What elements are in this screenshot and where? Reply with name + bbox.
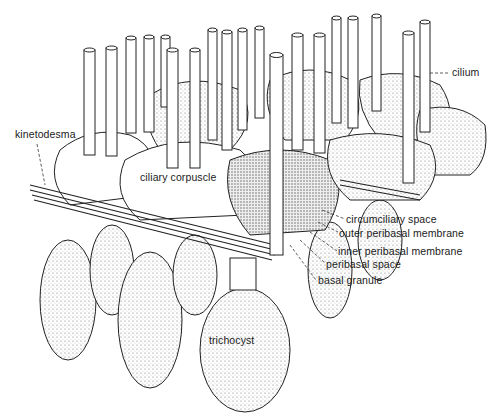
label-inner-peribasal-membrane: inner peribasal membrane <box>338 246 462 257</box>
label-outer-peribasal-membrane: outer peribasal membrane <box>339 228 464 239</box>
label-circumciliary-space: circumciliary space <box>346 214 437 225</box>
trichocyst-front <box>200 288 290 412</box>
label-trichocyst: trichocyst <box>209 335 254 346</box>
label-kinetodesma: kinetodesma <box>15 129 76 140</box>
label-cilium: cilium <box>452 67 479 78</box>
label-ciliary-corpuscle: ciliary corpuscle <box>140 172 216 183</box>
label-basal-granule: basal granule <box>318 275 382 286</box>
illustration <box>0 0 493 418</box>
label-peribasal-space: peribasal space <box>326 259 401 270</box>
diagram-canvas: cilium kinetodesma ciliary corpuscle cir… <box>0 0 493 418</box>
